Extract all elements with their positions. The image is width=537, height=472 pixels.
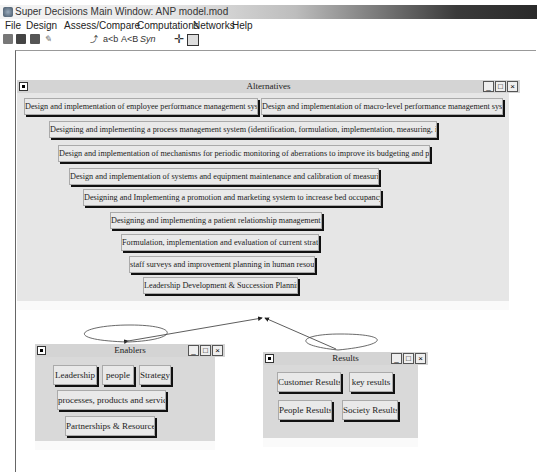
node-alt-1[interactable]: Design and implementation of employee pe… xyxy=(24,98,258,115)
node-society-results[interactable]: Society Results xyxy=(342,400,398,420)
horizontal-scrollbar[interactable] xyxy=(35,441,215,450)
cluster-window-results[interactable]: Results _ □ × Customer Results key resul… xyxy=(263,352,428,452)
minimize-icon[interactable]: _ xyxy=(391,353,402,364)
cluster-window-alternatives[interactable]: Alternatives _ □ × Design and implementa… xyxy=(17,80,520,317)
close-icon[interactable]: × xyxy=(507,81,518,92)
node-customer-results[interactable]: Customer Results xyxy=(277,372,341,392)
node-alt-10[interactable]: Leadership Development & Succession Plan… xyxy=(143,277,298,294)
node-key-results[interactable]: key results xyxy=(349,372,393,392)
vertical-scrollbar[interactable] xyxy=(418,365,426,438)
node-people[interactable]: people xyxy=(102,365,134,385)
horizontal-scrollbar[interactable] xyxy=(263,438,418,447)
vertical-scrollbar[interactable] xyxy=(215,357,223,441)
node-alt-2[interactable]: Design and implementation of macro-level… xyxy=(261,98,503,115)
node-partnerships[interactable]: Partnerships & Resources xyxy=(65,416,155,436)
vertical-scrollbar[interactable] xyxy=(509,93,517,301)
minimize-icon[interactable]: _ xyxy=(188,345,199,356)
node-alt-8[interactable]: Formulation, implementation and evaluati… xyxy=(121,234,319,251)
close-icon[interactable]: × xyxy=(415,353,426,364)
close-icon[interactable]: × xyxy=(212,345,223,356)
system-menu-icon[interactable] xyxy=(19,82,28,91)
cluster-title-alternatives: Alternatives xyxy=(17,80,520,93)
node-alt-5[interactable]: Design and implementation of systems and… xyxy=(69,168,379,185)
node-people-results[interactable]: People Results xyxy=(278,400,332,420)
cluster-window-enablers[interactable]: Enablers _ □ × Leadership people Strateg… xyxy=(35,344,225,454)
system-menu-icon[interactable] xyxy=(265,354,274,363)
node-alt-3[interactable]: Designing and implementing a process man… xyxy=(49,121,437,138)
node-processes[interactable]: processes, products and services xyxy=(57,390,166,410)
node-leadership[interactable]: Leadership xyxy=(53,365,97,385)
node-strategy[interactable]: Strategy xyxy=(139,365,171,385)
horizontal-scrollbar[interactable] xyxy=(17,301,509,310)
node-alt-7[interactable]: Designing and implementing a patient rel… xyxy=(110,212,322,229)
minimize-icon[interactable]: _ xyxy=(483,81,494,92)
maximize-icon[interactable]: □ xyxy=(495,81,506,92)
node-alt-6[interactable]: Designing and Implementing a promotion a… xyxy=(83,189,381,206)
maximize-icon[interactable]: □ xyxy=(200,345,211,356)
node-alt-4[interactable]: Design and implementation of mechanisms … xyxy=(58,145,430,162)
maximize-icon[interactable]: □ xyxy=(403,353,414,364)
node-alt-9[interactable]: staff surveys and improvement planning i… xyxy=(129,256,315,273)
system-menu-icon[interactable] xyxy=(37,346,46,355)
